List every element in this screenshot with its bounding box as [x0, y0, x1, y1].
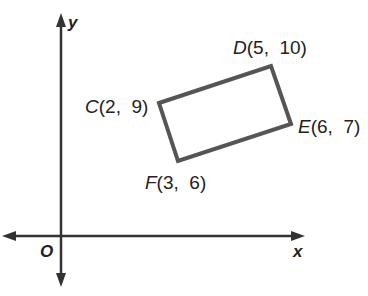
vertex-name: C	[85, 96, 99, 117]
vertex-coords: (6, 7)	[311, 116, 361, 137]
origin-label: O	[40, 243, 53, 260]
vertex-label-c: C(2, 9)	[85, 97, 148, 116]
vertex-label-f: F(3, 6)	[145, 173, 206, 192]
vertex-label-e: E(6, 7)	[298, 117, 360, 136]
y-axis	[56, 13, 66, 287]
vertex-name: E	[298, 116, 311, 137]
coordinate-plane-diagram: y x O C(2, 9) D(5, 10) E(6, 7) F(3, 6)	[0, 0, 368, 296]
vertex-name: D	[233, 37, 247, 58]
y-axis-up-arrow-icon	[56, 13, 66, 27]
x-axis-label: x	[293, 243, 302, 260]
quadrilateral-cdef	[159, 66, 291, 161]
x-axis	[2, 231, 305, 241]
vertex-label-d: D(5, 10)	[233, 38, 307, 57]
x-axis-right-arrow-icon	[291, 231, 305, 241]
diagram-graphics	[0, 0, 368, 296]
y-axis-down-arrow-icon	[56, 273, 66, 287]
vertex-coords: (5, 10)	[247, 37, 307, 58]
vertex-name: F	[145, 172, 157, 193]
x-axis-left-arrow-icon	[2, 231, 16, 241]
y-axis-label: y	[68, 14, 77, 31]
vertex-coords: (3, 6)	[157, 172, 207, 193]
vertex-coords: (2, 9)	[99, 96, 149, 117]
